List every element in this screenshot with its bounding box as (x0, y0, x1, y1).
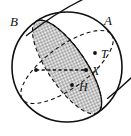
point-marker-h (70, 83, 74, 87)
point-label-x: X (92, 65, 99, 77)
point-label-h: H (79, 81, 88, 93)
shaded-ellipse-fill (20, 11, 113, 123)
point-label-t: T (101, 48, 108, 60)
point-marker-left-crossing (34, 68, 38, 72)
point-label-a: A (104, 14, 112, 27)
point-marker-t (93, 51, 97, 55)
great-circle-through-a (20, 11, 113, 123)
point-marker-x (84, 68, 88, 72)
geometry-figure: B A T X H (0, 0, 131, 136)
point-label-b: B (10, 15, 18, 28)
